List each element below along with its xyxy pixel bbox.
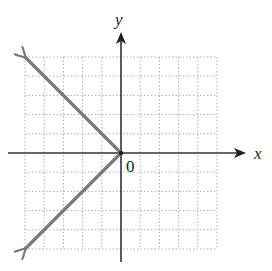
ray-upper-left	[25, 57, 121, 153]
y-axis-label: y	[113, 10, 123, 29]
coordinate-graph: x y 0	[0, 0, 272, 271]
origin-point	[119, 151, 123, 155]
x-axis-label: x	[253, 144, 262, 163]
ray-lower-left	[25, 153, 121, 249]
origin-label: 0	[126, 157, 135, 176]
